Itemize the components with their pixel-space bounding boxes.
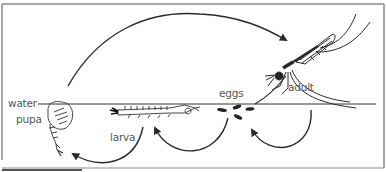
eggs-label: eggs — [219, 87, 243, 99]
arrow-pupa-to-adult — [68, 14, 286, 86]
pupa-label: pupa — [16, 113, 42, 125]
larva-icon — [110, 105, 200, 118]
eggs-icon — [217, 104, 255, 121]
frame-border — [2, 4, 384, 170]
arrow-adult-to-eggs — [252, 110, 311, 147]
life-cycle-diagram: water pupa larva eggs adult — [0, 0, 386, 172]
water-label: water — [8, 97, 37, 109]
arrow-eggs-to-larva — [155, 118, 228, 151]
adult-mosquito-icon — [255, 14, 370, 108]
larva-label: larva — [110, 131, 135, 143]
adult-label: adult — [288, 81, 314, 93]
diagram-graphics — [0, 0, 386, 172]
pupa-icon — [48, 102, 73, 156]
